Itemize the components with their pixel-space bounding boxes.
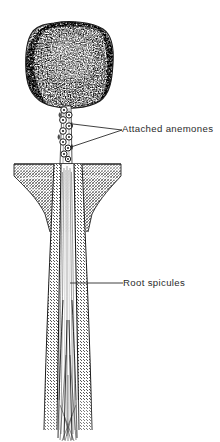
- sponge-body: [20, 16, 120, 116]
- label-root-spicules: Root spicules: [123, 278, 185, 288]
- label-attached-anemones: Attached anemones: [122, 124, 213, 134]
- figure-illustration: Attached anemones Root spicules: [0, 0, 220, 442]
- leader-lines-anemones: [71, 124, 122, 147]
- sponge-illustration-canvas: [0, 0, 220, 442]
